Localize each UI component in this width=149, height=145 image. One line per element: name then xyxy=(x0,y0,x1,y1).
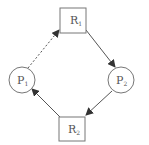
resource-node-r2: R2 xyxy=(59,117,85,141)
edge-p1-to-r1-claim xyxy=(28,30,59,68)
resource-allocation-graph: R1 P2 R2 P1 xyxy=(0,0,149,145)
edge-p2-to-r2 xyxy=(86,91,112,115)
process-node-p1: P1 xyxy=(9,67,35,93)
edge-r2-to-p1 xyxy=(32,89,60,117)
process-node-p2: P2 xyxy=(108,67,134,93)
resource-node-r1: R1 xyxy=(60,8,86,33)
edge-r1-to-p2 xyxy=(86,30,115,67)
